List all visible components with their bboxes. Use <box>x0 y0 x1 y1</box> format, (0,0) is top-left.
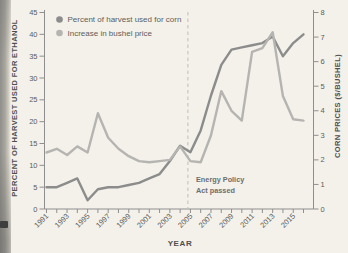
x-axis-tick-label: 2013 <box>258 212 276 230</box>
right-axis-tick-label: 8 <box>321 8 325 17</box>
x-axis-tick-label: 1999 <box>114 212 132 230</box>
x-axis-tick-label: 2001 <box>135 212 153 230</box>
left-axis-tick-label: 45 <box>29 8 37 17</box>
left-axis-tick-label: 30 <box>29 74 37 83</box>
left-axis-tick-label: 10 <box>29 161 37 170</box>
annotation-line-1: Energy Policy <box>196 175 245 184</box>
right-axis-tick-label: 2 <box>321 155 325 164</box>
left-axis-tick-label: 5 <box>33 183 37 192</box>
x-axis-tick-label: 1997 <box>94 212 112 230</box>
percent-of-harvest-line <box>47 34 304 200</box>
right-axis-tick-label: 0 <box>321 205 325 214</box>
left-axis-tick-label: 15 <box>29 139 37 148</box>
series-layer <box>47 32 304 200</box>
left-axis-title: PERCENT OF HARVEST USED FOR ETHANOL <box>10 19 19 197</box>
bushel-price-line <box>47 32 304 162</box>
legend-dot-percent <box>56 16 63 23</box>
annotation-line-2: Act passed <box>196 186 235 195</box>
left-axis-tick-label: 25 <box>29 95 37 104</box>
left-axis-tick-label: 20 <box>29 117 37 126</box>
legend-dot-price <box>56 30 63 37</box>
ethanol-corn-price-line-chart: 0510152025303540450123456781991199319951… <box>0 0 348 253</box>
x-axis-tick-label: 1995 <box>73 212 91 230</box>
right-axis-title: CORN PRICES ($/BUSHEL) <box>333 54 342 158</box>
axes-layer: 0510152025303540450123456781991199319951… <box>29 8 325 230</box>
x-axis-tick-label: 2011 <box>238 212 256 230</box>
x-axis-tick-label: 2003 <box>156 212 174 230</box>
left-axis-tick-label: 35 <box>29 52 37 61</box>
x-axis-tick-label: 1991 <box>32 212 50 230</box>
x-axis-title: YEAR <box>168 239 193 248</box>
x-axis-tick-label: 2005 <box>176 212 194 230</box>
legend-label-percent: Percent of harvest used for corn <box>68 15 182 24</box>
legend-label-price: Increase in bushel price <box>68 29 153 38</box>
x-axis-tick-label: 2007 <box>197 212 215 230</box>
right-axis-tick-label: 5 <box>321 82 325 91</box>
right-axis-tick-label: 3 <box>321 131 325 140</box>
x-axis-tick-label: 2015 <box>279 212 297 230</box>
left-axis-tick-label: 40 <box>29 30 37 39</box>
x-axis-tick-label: 2009 <box>217 212 235 230</box>
right-axis-tick-label: 6 <box>321 57 325 66</box>
legend: Percent of harvest used for corn Increas… <box>56 15 181 38</box>
book-page-photo: 0510152025303540450123456781991199319951… <box>0 0 348 253</box>
right-axis-tick-label: 1 <box>321 180 325 189</box>
energy-policy-annotation: Energy Policy Act passed <box>196 175 245 195</box>
right-axis-tick-label: 4 <box>321 106 325 115</box>
x-axis-tick-label: 1993 <box>53 212 71 230</box>
right-axis-tick-label: 7 <box>321 33 325 42</box>
left-axis-tick-label: 0 <box>33 205 37 214</box>
